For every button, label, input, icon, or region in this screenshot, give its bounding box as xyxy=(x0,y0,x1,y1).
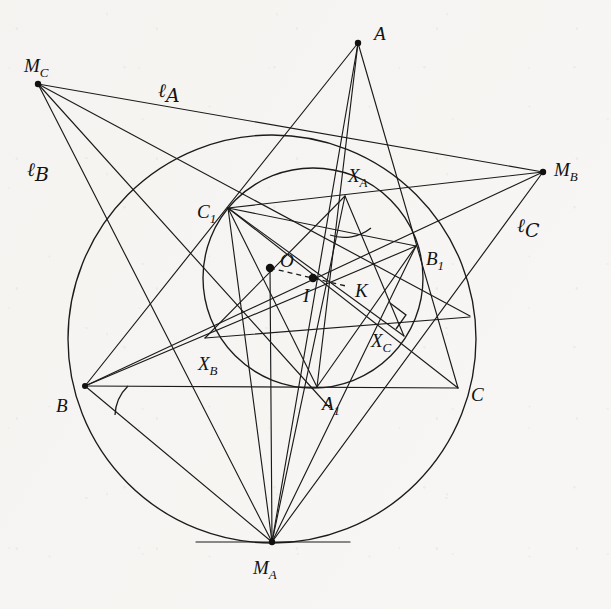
label-B1: B1 xyxy=(426,248,444,273)
label-I: I xyxy=(302,285,311,306)
point-I-dot xyxy=(309,274,317,282)
label-C: C xyxy=(471,384,484,405)
chord-XB-C xyxy=(205,317,470,338)
point-B-dot xyxy=(82,383,88,389)
label-B: B xyxy=(56,395,68,416)
figure-canvas: A B C A1 B1 C1 XA XB XC MA MB xyxy=(0,0,611,609)
label-line-lA: ℓA xyxy=(158,79,180,106)
chord-B1-C1 xyxy=(228,208,416,246)
tangent-line-lC xyxy=(272,172,543,542)
point-MC-dot xyxy=(35,81,41,87)
ray-MA-B1 xyxy=(272,246,416,542)
geometry-figure: A B C A1 B1 C1 XA XB XC MA MB xyxy=(0,0,611,609)
cevian-A-A1 xyxy=(317,43,358,387)
label-O: O xyxy=(280,250,294,271)
point-O-dot xyxy=(266,264,274,272)
chord-C-C1 xyxy=(228,208,458,388)
ray-MC-B1 xyxy=(38,84,470,316)
point-A-dot xyxy=(355,40,361,46)
ray-MA-C1 xyxy=(228,208,272,542)
radius-O-MA xyxy=(270,268,272,542)
label-XB: XB xyxy=(197,353,218,378)
label-line-lC: ℓC xyxy=(517,214,540,241)
label-A: A xyxy=(372,23,386,44)
tangent-line-lB xyxy=(38,84,272,542)
label-C1: C1 xyxy=(197,201,216,226)
angle-mark-at-B xyxy=(115,386,128,415)
label-K: K xyxy=(354,280,369,301)
label-MB: MB xyxy=(553,159,578,184)
right-angle-mark-at-XC xyxy=(390,303,406,329)
side-BC xyxy=(85,386,458,388)
side-AB xyxy=(85,43,358,386)
ray-MA-B xyxy=(85,386,272,542)
label-line-lB: ℓB xyxy=(27,158,49,185)
point-MB-dot xyxy=(540,169,546,175)
label-MA: MA xyxy=(252,557,277,582)
point-MA-dot xyxy=(269,539,275,545)
ray-MB-C1 xyxy=(228,172,543,208)
label-XA: XA xyxy=(347,165,368,190)
tangent-line-lA xyxy=(38,84,543,172)
label-A1: A1 xyxy=(320,393,340,418)
label-MC: MC xyxy=(23,55,49,80)
